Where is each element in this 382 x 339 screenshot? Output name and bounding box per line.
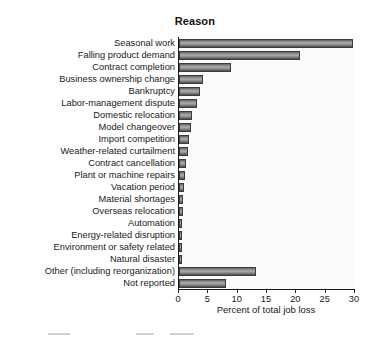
category-label: Weather-related curtailment [0,146,175,156]
bar [179,255,182,264]
category-label: Labor-management dispute [0,98,175,108]
bar [179,243,182,252]
bar [179,99,197,108]
bar [179,183,184,192]
bar [179,195,183,204]
bar-chart-plot-area: 051015202530 [178,37,354,289]
bar [179,123,191,132]
reason-column-header: Reason [0,15,215,27]
category-label: Material shortages [0,194,175,204]
category-label: Seasonal work [0,38,175,48]
bar [179,231,182,240]
plot-background [178,37,354,289]
caption-glyph-fragment [48,333,70,335]
x-tick-mark [325,289,326,293]
x-tick-mark [295,289,296,293]
x-tick-mark [354,289,355,293]
category-label: Other (including reorganization) [0,266,175,276]
x-tick-mark [178,289,179,293]
bar [179,51,300,60]
x-tick-label: 5 [192,294,222,304]
category-label: Business ownership change [0,74,175,84]
x-tick-label: 20 [280,294,310,304]
category-label: Falling product demand [0,50,175,60]
x-tick-label: 0 [163,294,193,304]
bar [179,171,185,180]
category-label: Contract cancellation [0,158,175,168]
x-tick-label: 10 [222,294,252,304]
category-label: Model changeover [0,122,175,132]
bar [179,147,188,156]
x-tick-label: 25 [310,294,340,304]
bar [179,75,203,84]
category-label: Environment or safety related [0,242,175,252]
clipped-caption-sliver [18,333,268,339]
category-label: Energy-related disruption [0,230,175,240]
bar [179,159,186,168]
bar [179,267,256,276]
x-axis-title: Percent of total job loss [178,304,354,315]
figure-job-loss-by-reason: Reason 051015202530 Seasonal workFalling… [0,0,382,339]
x-tick-label: 15 [251,294,281,304]
x-tick-mark [207,289,208,293]
category-label: Bankruptcy [0,86,175,96]
bar [179,207,183,216]
x-tick-mark [266,289,267,293]
x-tick-label: 30 [339,294,369,304]
caption-glyph-fragment [136,333,154,335]
x-tick-mark [237,289,238,293]
category-label: Natural disaster [0,254,175,264]
category-label: Not reported [0,278,175,288]
category-label: Domestic relocation [0,110,175,120]
category-label: Overseas relocation [0,206,175,216]
bar [179,219,182,228]
category-label: Plant or machine repairs [0,170,175,180]
bar [179,135,189,144]
bar [179,279,226,288]
caption-glyph-fragment [170,333,194,335]
category-label: Automation [0,218,175,228]
category-label: Contract completion [0,62,175,72]
category-label: Import competition [0,134,175,144]
bar [179,63,231,72]
bar [179,39,353,48]
bar [179,87,200,96]
bar [179,111,192,120]
category-label: Vacation period [0,182,175,192]
